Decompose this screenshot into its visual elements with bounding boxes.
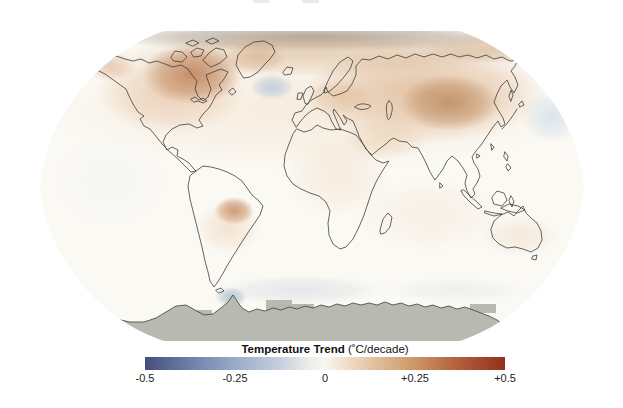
legend-tick-label: 0 <box>322 372 328 384</box>
trend-patch-north-pacific-cool <box>522 91 582 143</box>
cropped-text-artifact <box>253 0 269 3</box>
legend-colorbar <box>145 357 505 370</box>
trend-patch-australia-warm <box>480 216 560 256</box>
legend-tick-row: -0.5-0.250+0.25+0.5 <box>145 372 505 387</box>
trend-patch-alaska-warm <box>84 51 136 81</box>
trend-patch-southern-ocean-cool-e <box>385 278 525 302</box>
cropped-text-artifact <box>302 0 319 3</box>
legend-title-main: Temperature Trend <box>241 343 344 355</box>
trend-patch-east-pacific-neutral <box>55 135 165 225</box>
legend-title-units: (˚C/decade) <box>345 343 409 355</box>
legend: Temperature Trend (˚C/decade) -0.5-0.250… <box>145 342 505 387</box>
legend-tick-label: +0.25 <box>401 372 429 384</box>
trend-patch-east-arctic-warm <box>420 32 580 64</box>
legend-tick-label: -0.5 <box>136 372 155 384</box>
trend-patch-south-america-warm <box>196 202 260 254</box>
coastline-new-zealand <box>565 254 578 276</box>
legend-title: Temperature Trend (˚C/decade) <box>145 342 505 356</box>
legend-tick-label: -0.25 <box>222 372 247 384</box>
trend-patch-north-atlantic-cool <box>250 74 294 100</box>
trend-patch-greenland-warm <box>227 40 287 74</box>
figure-canvas: Temperature Trend (˚C/decade) -0.5-0.250… <box>0 0 623 408</box>
legend-tick-label: +0.5 <box>494 372 516 384</box>
trend-patch-siberia-strong <box>400 75 500 131</box>
